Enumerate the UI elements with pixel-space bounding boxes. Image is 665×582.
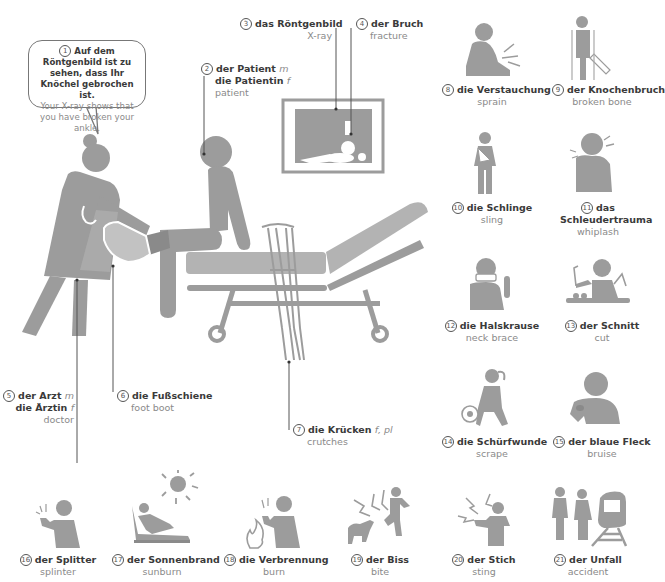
label-xray: 3das Röntgenbild X-ray xyxy=(240,18,332,42)
number-badge: 17 xyxy=(112,554,124,566)
number-badge: 21 xyxy=(554,554,566,566)
number-badge: 20 xyxy=(452,554,464,566)
number-badge: 14 xyxy=(442,436,454,448)
number-badge: 2 xyxy=(201,63,213,75)
number-badge: 1 xyxy=(59,45,71,57)
bubble-german: 1Auf dem Röntgenbild ist zu sehen, dass … xyxy=(32,45,142,101)
item-bite: 19der Biss bite xyxy=(330,554,430,578)
item-broken-bone: 9der Knochenbruch broken bone xyxy=(552,84,652,108)
number-badge: 11 xyxy=(581,202,593,214)
item-bruise: 15der blaue Fleck bruise xyxy=(552,436,652,460)
splinter-icon xyxy=(34,500,84,548)
number-badge: 12 xyxy=(445,320,457,332)
cut-icon xyxy=(566,258,630,310)
label-fracture: 4der Bruch fracture xyxy=(356,18,423,42)
bite-icon xyxy=(344,486,414,548)
number-badge: 6 xyxy=(117,390,129,402)
item-accident: 21der Unfall accident xyxy=(538,554,638,578)
item-sunburn: 17der Sonnenbrand sunburn xyxy=(112,554,212,578)
sling-icon xyxy=(470,132,500,194)
label-doctor: 5der Arzt m die Ärztin f doctor xyxy=(0,390,74,426)
whiplash-icon xyxy=(570,132,620,192)
number-badge: 9 xyxy=(552,84,564,96)
number-badge: 16 xyxy=(20,554,32,566)
item-neck-brace: 12die Halskrause neck brace xyxy=(442,320,542,344)
item-sling: 10die Schlinge sling xyxy=(442,202,542,226)
scrape-icon xyxy=(458,368,514,428)
number-badge: 15 xyxy=(553,436,565,448)
item-scrape: 14die Schürfwunde scrape xyxy=(442,436,542,460)
bruise-icon xyxy=(566,372,622,424)
broken-bone-icon xyxy=(572,14,632,79)
number-badge: 7 xyxy=(293,424,305,436)
neck-brace-icon xyxy=(468,258,518,310)
sting-icon xyxy=(456,492,512,546)
number-badge: 10 xyxy=(452,202,464,214)
sprain-icon xyxy=(462,22,522,77)
accident-icon xyxy=(548,484,628,546)
item-sprain: 8die Verstauchung sprain xyxy=(442,84,542,108)
burn-icon xyxy=(244,496,304,548)
number-badge: 19 xyxy=(351,554,363,566)
item-burn: 18die Verbrennung burn xyxy=(224,554,324,578)
number-badge: 13 xyxy=(565,320,577,332)
number-badge: 5 xyxy=(3,390,15,402)
item-whiplash: 11das Schleudertrauma whiplash xyxy=(560,202,636,238)
label-crutches: 7die Krücken f, pl crutches xyxy=(293,424,393,448)
item-cut: 13der Schnitt cut xyxy=(552,320,652,344)
number-badge: 8 xyxy=(442,84,454,96)
xray-image xyxy=(283,100,383,172)
crutches xyxy=(262,224,304,360)
item-sting: 20der Stich sting xyxy=(434,554,534,578)
label-patient: 2der Patient m die Patientin f patient xyxy=(201,63,290,99)
sunburn-icon xyxy=(130,470,202,548)
item-splinter: 16der Splitter splinter xyxy=(8,554,108,578)
number-badge: 4 xyxy=(356,18,368,30)
speech-bubble: 1Auf dem Röntgenbild ist zu sehen, dass … xyxy=(28,40,146,108)
number-badge: 3 xyxy=(240,18,252,30)
number-badge: 18 xyxy=(224,554,236,566)
bubble-english: Your X-ray shows that you have broken yo… xyxy=(32,101,142,134)
doctor-figure xyxy=(22,134,150,336)
label-foot-boot: 6die Fußschiene foot boot xyxy=(117,390,212,414)
